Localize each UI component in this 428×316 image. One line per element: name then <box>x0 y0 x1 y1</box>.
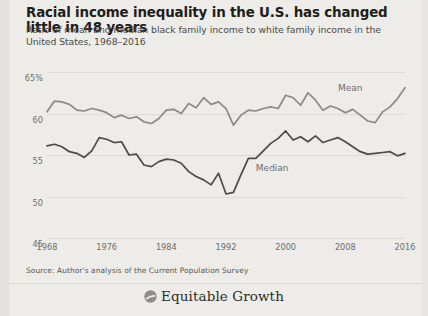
page-edge-left <box>0 0 9 316</box>
brand-name: Equitable Growth <box>161 288 284 304</box>
circle-swoosh-logo-icon <box>144 290 157 303</box>
page-edge-right <box>422 0 428 316</box>
x-tick-label-2000: 2000 <box>275 242 296 252</box>
x-axis-labels: 1968197619841992200020082016 <box>47 242 405 256</box>
y-tick-label-60: 60 <box>33 115 43 125</box>
x-tick-label-2008: 2008 <box>335 242 356 252</box>
x-tick-label-1976: 1976 <box>96 242 117 252</box>
source-note: Source: Author's analysis of the Current… <box>26 266 248 275</box>
y-tick-label-50: 50 <box>33 198 43 208</box>
y-tick-label-65: 65% <box>25 73 43 83</box>
chart-card: Racial income inequality in the U.S. has… <box>0 0 428 316</box>
chart-plot: 65%60555045 1968197619841992200020082016… <box>24 66 410 246</box>
plot-area <box>47 72 405 238</box>
series-line-mean <box>47 88 405 125</box>
brand-footer: Equitable Growth <box>0 288 428 304</box>
series-label-mean: Mean <box>338 83 363 93</box>
footer-divider <box>9 283 422 284</box>
y-axis-labels: 65%60555045 <box>24 72 43 238</box>
y-tick-label-55: 55 <box>33 156 43 166</box>
chart-subtitle: Ratio of mean and median black family in… <box>26 24 404 47</box>
x-tick-label-2016: 2016 <box>395 242 416 252</box>
series-line-median <box>47 131 405 194</box>
line-series-svg <box>47 72 405 238</box>
x-tick-label-1984: 1984 <box>156 242 177 252</box>
x-tick-label-1992: 1992 <box>216 242 237 252</box>
series-label-median: Median <box>256 163 289 173</box>
x-tick-label-1968: 1968 <box>37 242 58 252</box>
gridline-45 <box>47 238 405 239</box>
